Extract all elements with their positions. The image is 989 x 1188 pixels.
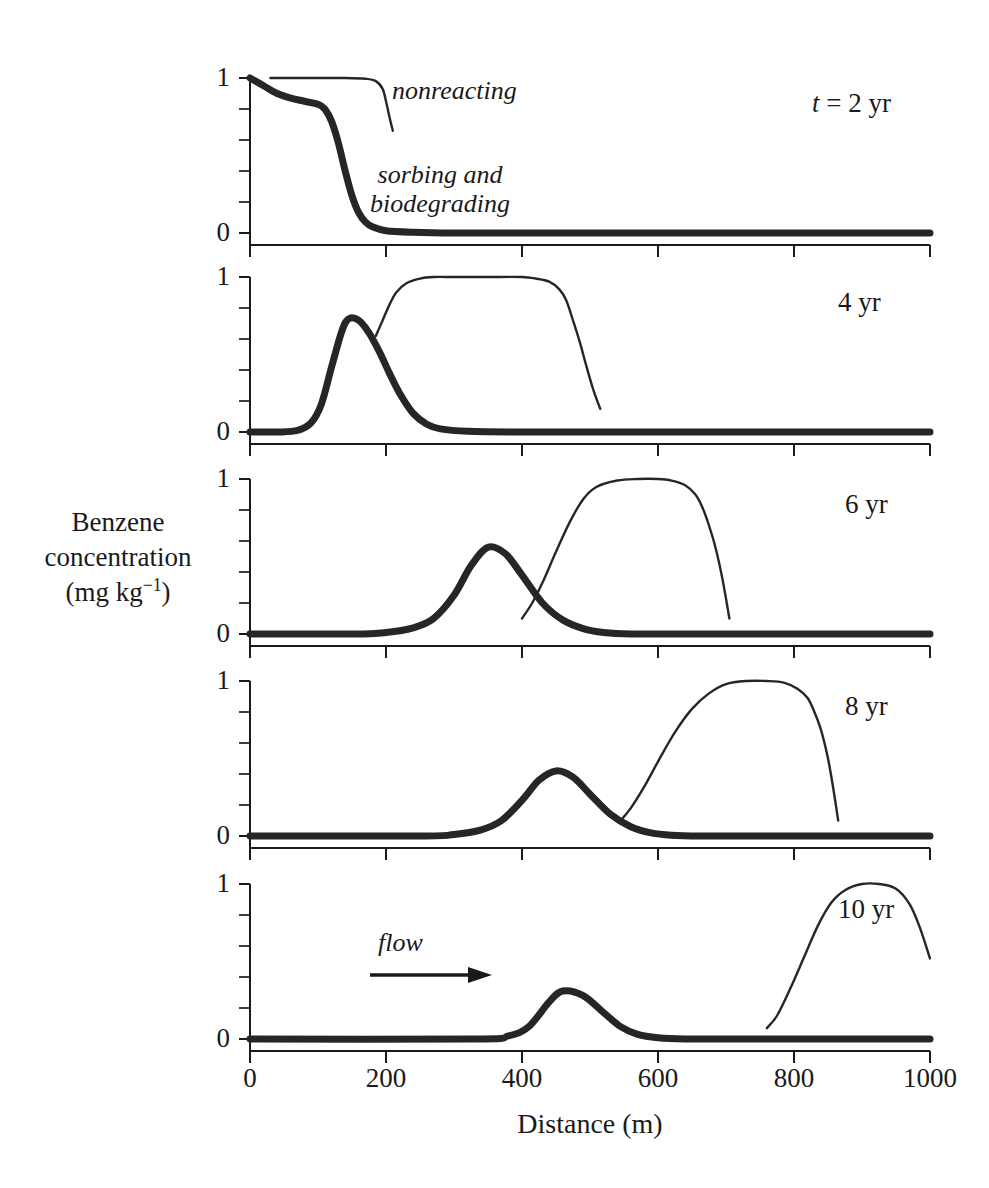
y-tick-label: 0 [196,1025,230,1052]
time-value: 2 yr [848,88,891,118]
y-tick-label: 1 [196,465,230,492]
panel-6-yr: 10 [250,479,930,664]
curve-nonreacting [621,681,839,821]
curve-nonreacting [522,479,729,619]
curve-sorbing-and-biodegrading [250,991,930,1040]
panel-plot-area [250,884,936,1069]
panel-8-yr: 10 [250,681,930,866]
panel-time-label-10-yr: 10 yr [838,896,894,923]
time-value: 6 yr [845,489,888,519]
y-tick-label: 0 [196,822,230,849]
y-tick-label: 1 [196,870,230,897]
annotation-flow: flow [378,928,423,958]
y-tick-label: 0 [196,418,230,445]
y-axis-units-close: ) [162,577,171,607]
y-axis-title: Benzene concentration (mg kg−1) [18,505,218,610]
panel-plot-area [250,277,936,462]
y-tick-label: 0 [196,219,230,246]
annotation-sorbing-line2: biodegrading [340,189,540,218]
time-symbol: t [812,88,820,118]
panel-plot-area [250,681,936,866]
flow-arrow-icon [368,962,498,988]
y-tick-label: 1 [196,667,230,694]
time-value: 10 yr [838,894,894,924]
panel-time-label-2-yr: t = 2 yr [812,90,891,117]
y-tick-label: 1 [196,64,230,91]
y-axis-title-line1: Benzene [18,505,218,540]
curve-nonreacting [376,277,600,409]
y-axis-units-exponent: −1 [143,575,162,595]
annotation-sorbing-line1: sorbing and [340,160,540,189]
panel-time-label-8-yr: 8 yr [845,693,888,720]
panel-time-label-6-yr: 6 yr [845,491,888,518]
x-tick-label: 0 [190,1065,310,1092]
equals-sign: = [820,88,849,118]
x-tick-label: 600 [598,1065,718,1092]
y-axis-title-line2: concentration [18,540,218,575]
panel-4-yr: 10 [250,277,930,462]
y-tick-label: 0 [196,620,230,647]
curve-sorbing-and-biodegrading [250,771,930,836]
time-value: 4 yr [838,287,881,317]
x-tick-label: 200 [326,1065,446,1092]
panel-time-label-4-yr: 4 yr [838,289,881,316]
curve-sorbing-and-biodegrading [250,547,930,635]
x-tick-label: 800 [734,1065,854,1092]
panel-plot-area [250,479,936,664]
panel-10-yr: 10 [250,884,930,1069]
annotation-nonreacting: nonreacting [392,76,517,105]
x-tick-label: 1000 [870,1065,989,1092]
x-axis-title: Distance (m) [250,1108,930,1140]
x-tick-label: 400 [462,1065,582,1092]
y-tick-label: 1 [196,263,230,290]
time-value: 8 yr [845,691,888,721]
annotation-sorbing-biodegrading: sorbing and biodegrading [340,160,540,218]
benzene-concentration-figure: Benzene concentration (mg kg−1) 10101010… [0,0,989,1188]
y-axis-units-open: (mg kg [65,577,142,607]
y-axis-title-line3: (mg kg−1) [18,575,218,610]
